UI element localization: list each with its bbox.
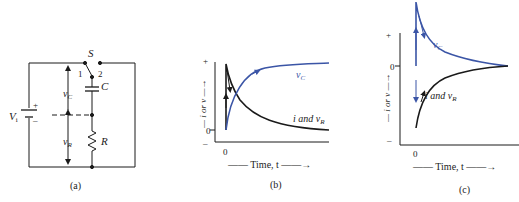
b-xlabel: —— Time, t ——→ — [227, 159, 311, 170]
rc-circuit-figure: S 1 2 C R Vi + – vC vR (a) + 0 – 0 — i o… — [0, 0, 519, 202]
resistor-zigzag — [88, 131, 96, 151]
source-minus: – — [32, 115, 38, 125]
c-ivr-label: i and vR — [425, 90, 457, 103]
c-vc-arrow — [419, 16, 424, 36]
switch-node-2 — [98, 61, 101, 64]
c-xlabel: —— Time, t ——→ — [412, 161, 496, 172]
panel-a-labels: S 1 2 C R Vi + – vC vR (a) — [9, 47, 109, 192]
switch-pos1-label: 1 — [78, 69, 83, 79]
switch-pos2-label: 2 — [98, 69, 103, 79]
capacitor-label: C — [101, 80, 109, 92]
b-vc-label: vC — [296, 69, 305, 82]
b-ivr-label: i and vR — [293, 113, 325, 126]
c-y-plus: + — [386, 30, 391, 40]
switch-label: S — [88, 47, 94, 59]
panel-c-plot — [395, 2, 519, 145]
switch-arm — [85, 63, 92, 76]
source-plus: + — [33, 100, 38, 110]
c-ylabel: — i or v —→ — [382, 73, 392, 123]
c-y-minus: – — [386, 135, 392, 145]
c-y-zero: 0 — [390, 62, 395, 72]
resistor-label: R — [100, 135, 108, 147]
panel-b-labels: + 0 – 0 — i or v —→ —— Time, t ——→ vC i … — [198, 56, 325, 191]
c-x-zero: 0 — [413, 149, 418, 159]
c-vc-label: vC — [433, 39, 442, 52]
b-y-plus: + — [203, 56, 208, 66]
panel-b-plot — [210, 62, 329, 142]
midpoint-node — [90, 113, 93, 116]
caption-b: (b) — [270, 179, 282, 191]
b-x-zero: 0 — [223, 147, 228, 157]
b-ylabel: — i or v —→ — [198, 79, 208, 129]
source-label: Vi — [9, 110, 18, 124]
panel-c-labels: + 0 – 0 — i or v —→ —— Time, t ——→ vC i … — [382, 30, 496, 196]
bottom-node — [90, 165, 93, 168]
caption-c: (c) — [459, 184, 470, 196]
caption-a: (a) — [70, 180, 81, 192]
c-vc-curve — [416, 2, 508, 66]
b-y-minus: – — [202, 138, 208, 148]
